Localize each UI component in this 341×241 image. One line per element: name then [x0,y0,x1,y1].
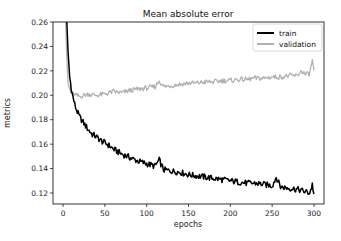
y-tick-label: 0.12 [31,189,48,198]
x-axis-label: epochs [174,220,203,229]
y-tick-label: 0.14 [31,164,48,173]
line-chart: Mean absolute error 050100150200250300 0… [0,0,341,241]
x-tick-label: 250 [265,209,280,218]
y-axis-label: metrics [3,98,12,128]
y-tick-label: 0.24 [31,42,48,51]
y-tick-label: 0.18 [31,115,48,124]
x-tick-label: 100 [140,209,155,218]
y-tick-label: 0.20 [31,91,48,100]
y-tick-label: 0.22 [31,67,48,76]
legend-label-train: train [279,29,297,38]
chart-title: Mean absolute error [143,9,234,19]
x-tick-label: 200 [223,209,238,218]
legend: train validation [253,24,322,51]
x-tick-label: 50 [100,209,110,218]
legend-label-validation: validation [279,40,316,49]
y-tick-label: 0.26 [31,18,48,27]
y-tick-label: 0.16 [31,140,48,149]
x-tick-label: 300 [307,209,322,218]
x-tick-label: 150 [181,209,196,218]
x-tick-label: 0 [61,209,66,218]
